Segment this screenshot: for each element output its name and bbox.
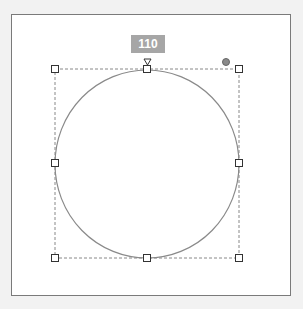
handle-bottom[interactable] [143,254,151,262]
handle-left[interactable] [51,159,59,167]
handle-bottom-right[interactable] [235,254,243,262]
handle-bottom-left[interactable] [51,254,59,262]
handle-top-left[interactable] [51,65,59,73]
size-label-badge: 110 [131,35,165,53]
circle-shape[interactable] [55,70,239,258]
handle-right[interactable] [235,159,243,167]
handle-top-right[interactable] [235,65,243,73]
rotation-handle[interactable] [222,58,230,66]
handle-top[interactable] [143,65,151,73]
